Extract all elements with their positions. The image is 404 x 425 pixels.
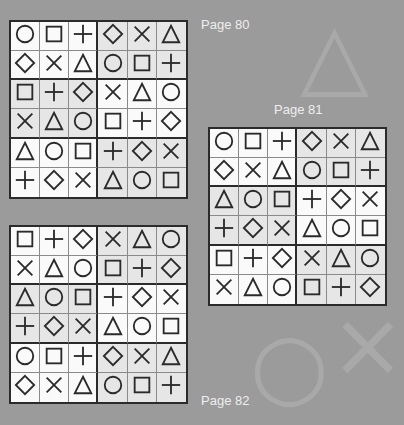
diamond-icon [102, 345, 124, 371]
grid-cell [157, 285, 186, 314]
plus-icon [359, 159, 381, 185]
grid-cell [239, 216, 268, 245]
cross-icon [102, 228, 124, 254]
grid-cell [128, 344, 157, 373]
diamond-icon [330, 188, 352, 214]
cross-icon [72, 315, 94, 341]
diamond-icon [301, 130, 323, 156]
diamond-icon [131, 140, 153, 166]
grid-cell [40, 168, 69, 197]
grid-cell [11, 285, 40, 314]
grid-cell [69, 80, 98, 109]
grid-cell [327, 187, 356, 216]
grid-cell [69, 256, 98, 285]
grid-cell [98, 227, 127, 256]
grid-cell [11, 256, 40, 285]
plus-icon [102, 140, 124, 166]
grid-cell [239, 246, 268, 275]
circle-icon [14, 23, 36, 49]
grid-cell [40, 51, 69, 80]
grid-cell [98, 80, 127, 109]
grid-cell [98, 256, 127, 285]
grid-cell [128, 109, 157, 138]
diamond-icon [131, 286, 153, 312]
diamond-icon [72, 228, 94, 254]
grid-cell [327, 246, 356, 275]
cross-icon [131, 23, 153, 49]
grid-cell [268, 216, 297, 245]
grid-cell [157, 373, 186, 402]
circle-icon [242, 188, 264, 214]
grid-cell [157, 51, 186, 80]
grid-cell [11, 373, 40, 402]
square-icon [160, 169, 182, 195]
circle-icon [72, 110, 94, 136]
plus-icon [301, 188, 323, 214]
square-icon [131, 374, 153, 400]
cross-icon [160, 140, 182, 166]
circle-icon [301, 159, 323, 185]
grid-cell [11, 314, 40, 343]
grid-cell [69, 344, 98, 373]
grid-cell [157, 80, 186, 109]
grid-cell [356, 216, 385, 245]
grid-cell [98, 51, 127, 80]
circle-icon [359, 247, 381, 273]
grid-cell [297, 246, 326, 275]
diamond-icon [160, 257, 182, 283]
diamond-icon [213, 159, 235, 185]
grid-cell [356, 246, 385, 275]
diamond-icon [160, 110, 182, 136]
grid-cell [128, 285, 157, 314]
grid-cell [239, 275, 268, 304]
cross-icon [72, 169, 94, 195]
triangle-icon [72, 374, 94, 400]
cross-icon [43, 374, 65, 400]
grid-cell [239, 187, 268, 216]
cross-icon [14, 257, 36, 283]
grid-cell [11, 51, 40, 80]
plus-icon [72, 345, 94, 371]
plus-icon [14, 169, 36, 195]
square-icon [72, 140, 94, 166]
background-watermark-cross-icon: × [330, 300, 404, 390]
grid-cell [268, 275, 297, 304]
circle-icon [72, 257, 94, 283]
grid-cell [128, 168, 157, 197]
square-icon [242, 130, 264, 156]
grid-cell [69, 139, 98, 168]
grid-cell [11, 168, 40, 197]
plus-icon [72, 23, 94, 49]
grid-cell [210, 246, 239, 275]
grid-cell [297, 129, 326, 158]
triangle-icon [213, 188, 235, 214]
triangle-icon [301, 217, 323, 243]
square-icon [14, 81, 36, 107]
square-icon [102, 257, 124, 283]
grid-cell [128, 51, 157, 80]
grid-cell [98, 168, 127, 197]
background-watermark-circle-icon: ○ [250, 320, 329, 410]
cross-icon [330, 130, 352, 156]
grid-cell [98, 109, 127, 138]
cross-icon [14, 110, 36, 136]
triangle-icon [359, 130, 381, 156]
plus-icon [330, 276, 352, 302]
grid-cell [11, 344, 40, 373]
diamond-icon [242, 217, 264, 243]
circle-icon [102, 374, 124, 400]
grid-cell [268, 129, 297, 158]
grid-cell [157, 314, 186, 343]
plus-icon [43, 228, 65, 254]
grid-cell [356, 129, 385, 158]
grid-cell [69, 373, 98, 402]
triangle-icon [43, 257, 65, 283]
cross-icon [43, 52, 65, 78]
grid-cell [356, 187, 385, 216]
triangle-icon [102, 169, 124, 195]
grid-cell [11, 227, 40, 256]
grid-cell [210, 158, 239, 187]
square-icon [359, 217, 381, 243]
circle-icon [43, 140, 65, 166]
circle-icon [131, 315, 153, 341]
